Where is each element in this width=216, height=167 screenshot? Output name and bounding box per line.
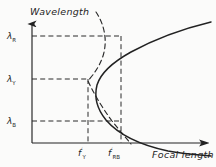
y-tick-label-lambda-B: λB	[7, 116, 16, 128]
y-tick-label-lambda-R: λR	[7, 31, 16, 43]
f-prime-Y-prime: ′	[81, 146, 82, 153]
y-tick-label-lambda-Y: λY	[7, 74, 16, 86]
solid-dispersion-curve	[96, 22, 211, 156]
lambda-R-sub: R	[12, 37, 16, 43]
f-prime-RB-sub: RB	[113, 154, 121, 160]
f-prime-Y-sub: Y	[83, 154, 86, 160]
x-tick-label-f-prime-Y: f′Y	[78, 146, 86, 160]
x-axis-title: Focal length	[152, 149, 214, 160]
lambda-Y-sub: Y	[12, 80, 15, 86]
y-axis-title: Wavelength	[30, 6, 89, 17]
wavelength-vs-focal-length-chart	[0, 0, 216, 167]
x-tick-label-f-prime-RB: f′RB	[108, 146, 120, 160]
f-prime-RB-prime: ′	[111, 146, 112, 153]
lambda-B-sub: B	[12, 122, 16, 128]
